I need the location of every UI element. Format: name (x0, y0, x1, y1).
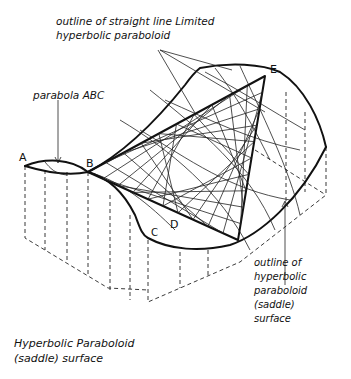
ruled-line (194, 114, 249, 174)
annotation-top-line1: outline of straight line Limited (56, 15, 215, 27)
annotation-top-line2: hyperbolic paraboloid (56, 29, 171, 41)
annotation-right-line4: (saddle) (254, 299, 295, 310)
annotation-right-line1: outline of (254, 257, 303, 268)
annotation-right-line2: hyperbolic (254, 271, 307, 282)
point-label-d: D (170, 218, 178, 231)
annotation-parabola: parabola ABC (32, 89, 105, 101)
point-label-b: B (86, 157, 94, 170)
hyperbolic-paraboloid-diagram: A B C D E outline of straight line Limit… (0, 0, 351, 379)
ruled-line (103, 86, 247, 179)
caption-line2: (saddle) surface (14, 352, 103, 365)
point-label-a: A (19, 151, 27, 164)
point-label-e: E (270, 63, 277, 76)
annotation-right-line3: paraboloid (253, 285, 308, 296)
ruled-line (103, 179, 241, 224)
caption-line1: Hyperbolic Paraboloid (14, 337, 136, 350)
straight-line-hypar (88, 76, 265, 240)
annotation-right-line5: surface (254, 313, 291, 324)
point-label-c: C (151, 227, 158, 238)
